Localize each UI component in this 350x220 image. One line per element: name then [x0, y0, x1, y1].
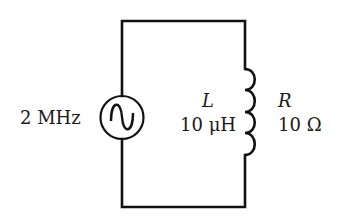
inductor-symbol-label: L	[201, 90, 214, 111]
resistance-value-label: 10 Ω	[278, 114, 322, 135]
inductor-coil	[245, 69, 255, 155]
circuit-diagram: 2 MHz L 10 μH R 10 Ω	[0, 0, 350, 220]
wire-left-top	[122, 21, 245, 96]
wire-left-bottom	[122, 139, 245, 207]
ac-source	[101, 96, 144, 139]
resistance-symbol-label: R	[277, 90, 292, 111]
sine-wave-icon	[111, 105, 133, 130]
inductor-value-label: 10 μH	[180, 114, 236, 135]
source-frequency-label: 2 MHz	[20, 107, 81, 128]
